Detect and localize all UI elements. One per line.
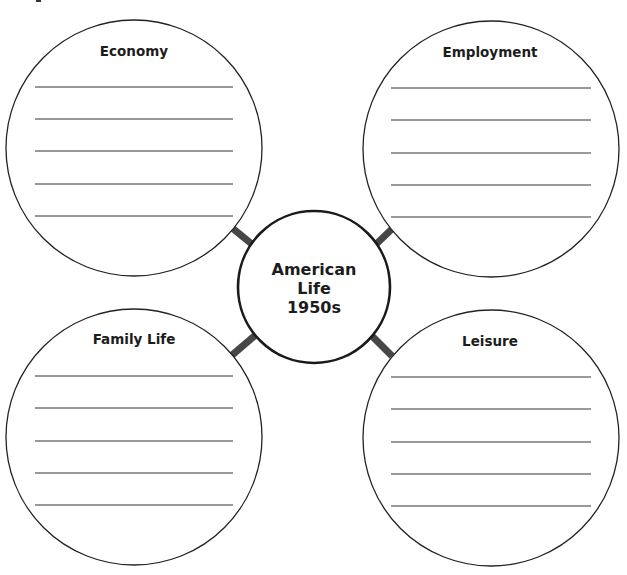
center-title-line-2: Life (297, 279, 331, 298)
topic-title-economy: Economy (100, 43, 168, 59)
center-title-line-1: American (272, 260, 357, 279)
topic-title-family-life: Family Life (93, 331, 176, 347)
topic-circle-employment: Employment (363, 21, 619, 277)
topic-title-leisure: Leisure (462, 333, 518, 349)
topic-circle-leisure: Leisure (363, 310, 619, 566)
graphic-organizer: Economy Employment Family Life Leisure (0, 0, 627, 575)
topic-circle-family-life: Family Life (6, 309, 262, 565)
topic-circle-economy: Economy (6, 20, 262, 276)
cropped-mark (36, 0, 41, 2)
topic-title-employment: Employment (443, 44, 538, 60)
center-title-line-3: 1950s (287, 298, 341, 317)
center-circle: American Life 1950s (238, 211, 390, 363)
